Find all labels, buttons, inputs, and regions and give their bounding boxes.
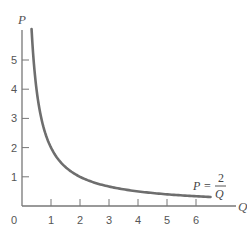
x-tick-label: 3 [106, 214, 112, 226]
x-tick-label: 6 [193, 214, 199, 226]
y-tick-label: 4 [11, 83, 17, 95]
y-tick-label: 3 [11, 112, 17, 124]
y-ticks: 12345 [11, 54, 29, 183]
origin-label: 0 [11, 214, 17, 226]
x-tick-label: 1 [48, 214, 54, 226]
x-tick-label: 4 [135, 214, 141, 226]
equation-denominator: Q [215, 187, 224, 201]
y-tick-label: 1 [11, 171, 17, 183]
equation-numerator: 2 [218, 171, 224, 185]
x-ticks: 123456 [48, 199, 199, 226]
x-axis-label: Q [238, 199, 247, 214]
demand-curve [32, 29, 211, 197]
y-tick-label: 2 [11, 142, 17, 154]
equation-equals: = [204, 179, 211, 193]
equation-lhs: P [192, 179, 201, 193]
x-tick-label: 5 [164, 214, 170, 226]
y-axis-label: P [17, 12, 26, 27]
x-tick-label: 2 [77, 214, 83, 226]
y-tick-label: 5 [11, 54, 17, 66]
chart: 123456 12345 P Q 0 P = 2 Q [0, 0, 247, 233]
